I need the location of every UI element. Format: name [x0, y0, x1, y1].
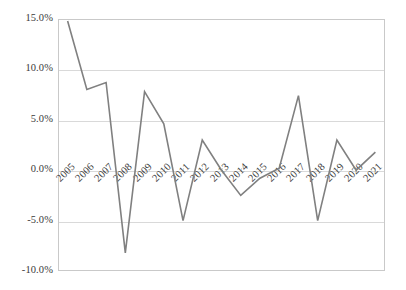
line-chart: 15.0%10.0%5.0%0.0%-5.0%-10.0% 2005200620… [0, 0, 406, 290]
x-axis-tick-label: 2019 [323, 161, 346, 184]
x-axis-tick-labels: 2005200620072008200920102011201220132014… [0, 0, 406, 290]
x-axis-tick-label: 2020 [342, 161, 365, 184]
x-axis-tick-label: 2021 [361, 161, 384, 184]
x-axis-tick-label: 2018 [304, 161, 327, 184]
x-axis-tick-label: 2015 [246, 161, 269, 184]
x-axis-tick-label: 2005 [54, 161, 77, 184]
x-axis-tick-label: 2017 [284, 161, 307, 184]
x-axis-tick-label: 2011 [169, 161, 192, 184]
x-axis-tick-label: 2010 [150, 161, 173, 184]
x-axis-tick-label: 2009 [131, 161, 154, 184]
x-axis-tick-label: 2013 [208, 161, 231, 184]
x-axis-tick-label: 2006 [73, 161, 96, 184]
x-axis-tick-label: 2008 [111, 161, 134, 184]
x-axis-tick-label: 2007 [92, 161, 115, 184]
x-axis-tick-label: 2016 [265, 161, 288, 184]
x-axis-tick-label: 2012 [188, 161, 211, 184]
x-axis-tick-label: 2014 [227, 161, 250, 184]
